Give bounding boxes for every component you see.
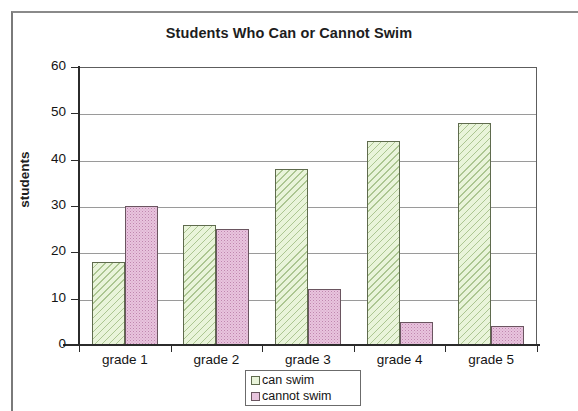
legend-item-can-swim: can swim bbox=[251, 372, 360, 388]
legend-label-can-swim: can swim bbox=[262, 373, 314, 387]
x-axis-line bbox=[63, 344, 540, 346]
bar-can-swim-grade-3 bbox=[275, 169, 308, 345]
chart-title: Students Who Can or Cannot Swim bbox=[0, 25, 578, 41]
chart-screenshot: Students Who Can or Cannot Swim students… bbox=[0, 0, 578, 411]
bar-can-swim-grade-2 bbox=[183, 225, 216, 345]
bar-cannot-swim-grade-3 bbox=[308, 289, 341, 345]
x-axis-tick-label: grade 5 bbox=[436, 352, 546, 367]
y-axis-tick bbox=[71, 345, 79, 346]
y-axis-tick-label: 40 bbox=[26, 151, 66, 166]
y-axis-tick-label: 20 bbox=[26, 243, 66, 258]
legend-swatch-can-swim bbox=[251, 376, 260, 385]
y-axis-tick bbox=[71, 299, 79, 300]
bar-can-swim-grade-1 bbox=[92, 262, 125, 345]
bar-cannot-swim-grade-5 bbox=[491, 326, 524, 345]
y-axis-tick bbox=[71, 160, 79, 161]
y-axis-tick-label: 30 bbox=[26, 197, 66, 212]
legend-label-cannot-swim: cannot swim bbox=[262, 389, 331, 403]
x-axis-tick bbox=[537, 346, 538, 352]
y-axis-tick-label: 10 bbox=[26, 290, 66, 305]
y-axis-tick bbox=[71, 252, 79, 253]
y-axis-tick bbox=[71, 113, 79, 114]
chart-legend: can swim cannot swim bbox=[245, 370, 361, 406]
bar-cannot-swim-grade-2 bbox=[216, 229, 249, 345]
bar-can-swim-grade-4 bbox=[367, 141, 400, 345]
y-axis-tick-label: 60 bbox=[26, 58, 66, 73]
y-axis-tick-label: 0 bbox=[26, 336, 66, 351]
bar-cannot-swim-grade-1 bbox=[125, 206, 158, 345]
legend-item-cannot-swim: cannot swim bbox=[251, 388, 360, 404]
y-axis-tick-label: 50 bbox=[26, 104, 66, 119]
legend-swatch-cannot-swim bbox=[251, 392, 260, 401]
bar-can-swim-grade-5 bbox=[458, 123, 491, 345]
y-axis-tick bbox=[71, 206, 79, 207]
bar-cannot-swim-grade-4 bbox=[400, 322, 433, 345]
plot-area bbox=[79, 67, 537, 345]
y-axis-tick bbox=[71, 67, 79, 68]
gridline bbox=[79, 114, 536, 115]
